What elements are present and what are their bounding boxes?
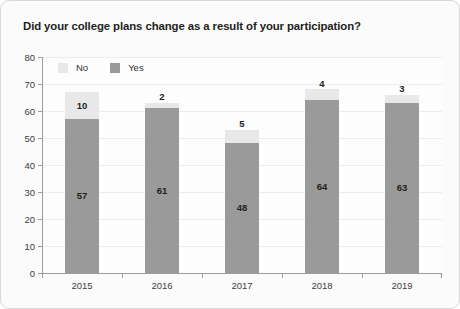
bar-segment-yes[interactable]: 63 bbox=[385, 103, 419, 273]
bar-group: 612 bbox=[145, 57, 179, 273]
y-tick-mark bbox=[38, 111, 42, 112]
y-tick-mark bbox=[38, 138, 42, 139]
x-tick-label: 2017 bbox=[231, 280, 252, 291]
legend-label: No bbox=[76, 62, 88, 73]
y-tick-mark bbox=[38, 84, 42, 85]
x-axis-line bbox=[42, 273, 442, 274]
bar-group: 644 bbox=[305, 57, 339, 273]
bar-group: 633 bbox=[385, 57, 419, 273]
y-axis-line bbox=[42, 57, 43, 273]
bar-value-label: 2 bbox=[159, 92, 164, 102]
bar-segment-yes[interactable]: 61 bbox=[145, 108, 179, 273]
bar-segment-yes[interactable]: 57 bbox=[65, 119, 99, 273]
x-tick-label: 2018 bbox=[311, 280, 332, 291]
x-tick-mark bbox=[362, 273, 363, 278]
x-tick-mark bbox=[42, 273, 43, 278]
bar-value-label: 57 bbox=[77, 191, 88, 201]
y-tick-label: 50 bbox=[24, 133, 35, 144]
legend-label: Yes bbox=[128, 62, 144, 73]
bar-value-label: 61 bbox=[157, 186, 168, 196]
bar-value-label: 10 bbox=[77, 101, 88, 111]
y-tick-label: 30 bbox=[24, 187, 35, 198]
bar-segment-no[interactable]: 10 bbox=[65, 92, 99, 119]
legend-item-no[interactable]: No bbox=[58, 62, 88, 73]
y-tick-label: 10 bbox=[24, 241, 35, 252]
chart-legend: NoYes bbox=[58, 62, 144, 73]
plot-frame: 5710612485644633 NoYes 01020304050607080… bbox=[42, 57, 442, 273]
bar-segment-no[interactable]: 2 bbox=[145, 103, 179, 108]
x-tick-label: 2019 bbox=[391, 280, 412, 291]
y-tick-mark bbox=[38, 246, 42, 247]
bar-segment-no[interactable]: 4 bbox=[305, 89, 339, 100]
bar-segment-yes[interactable]: 64 bbox=[305, 100, 339, 273]
y-tick-mark bbox=[38, 219, 42, 220]
bar-value-label: 64 bbox=[317, 182, 328, 192]
bar-value-label: 63 bbox=[397, 183, 408, 193]
x-tick-label: 2016 bbox=[151, 280, 172, 291]
legend-item-yes[interactable]: Yes bbox=[110, 62, 144, 73]
x-tick-mark bbox=[122, 273, 123, 278]
bar-value-label: 48 bbox=[237, 203, 248, 213]
y-tick-label: 70 bbox=[24, 79, 35, 90]
bar-segment-yes[interactable]: 48 bbox=[225, 143, 259, 273]
bar-segment-no[interactable]: 3 bbox=[385, 95, 419, 103]
bar-group: 485 bbox=[225, 57, 259, 273]
bar-group: 5710 bbox=[65, 57, 99, 273]
plot-area: 5710612485644633 NoYes bbox=[42, 57, 442, 273]
page-title: Did your college plans change as a resul… bbox=[23, 20, 361, 32]
bar-value-label: 4 bbox=[319, 79, 324, 89]
x-tick-mark bbox=[202, 273, 203, 278]
x-tick-mark bbox=[282, 273, 283, 278]
bar-value-label: 5 bbox=[239, 119, 244, 129]
x-tick-label: 2015 bbox=[71, 280, 92, 291]
chart-figure: Did your college plans change as a resul… bbox=[0, 0, 460, 309]
legend-swatch-icon bbox=[58, 63, 68, 73]
x-tick-mark bbox=[441, 273, 442, 278]
y-tick-mark bbox=[38, 192, 42, 193]
y-tick-mark bbox=[38, 165, 42, 166]
y-tick-mark bbox=[38, 57, 42, 58]
y-tick-label: 60 bbox=[24, 106, 35, 117]
legend-swatch-icon bbox=[110, 63, 120, 73]
bar-segment-no[interactable]: 5 bbox=[225, 130, 259, 144]
bar-value-label: 3 bbox=[399, 84, 404, 94]
y-tick-label: 80 bbox=[24, 52, 35, 63]
y-tick-label: 40 bbox=[24, 160, 35, 171]
y-tick-label: 0 bbox=[30, 268, 35, 279]
y-tick-label: 20 bbox=[24, 214, 35, 225]
